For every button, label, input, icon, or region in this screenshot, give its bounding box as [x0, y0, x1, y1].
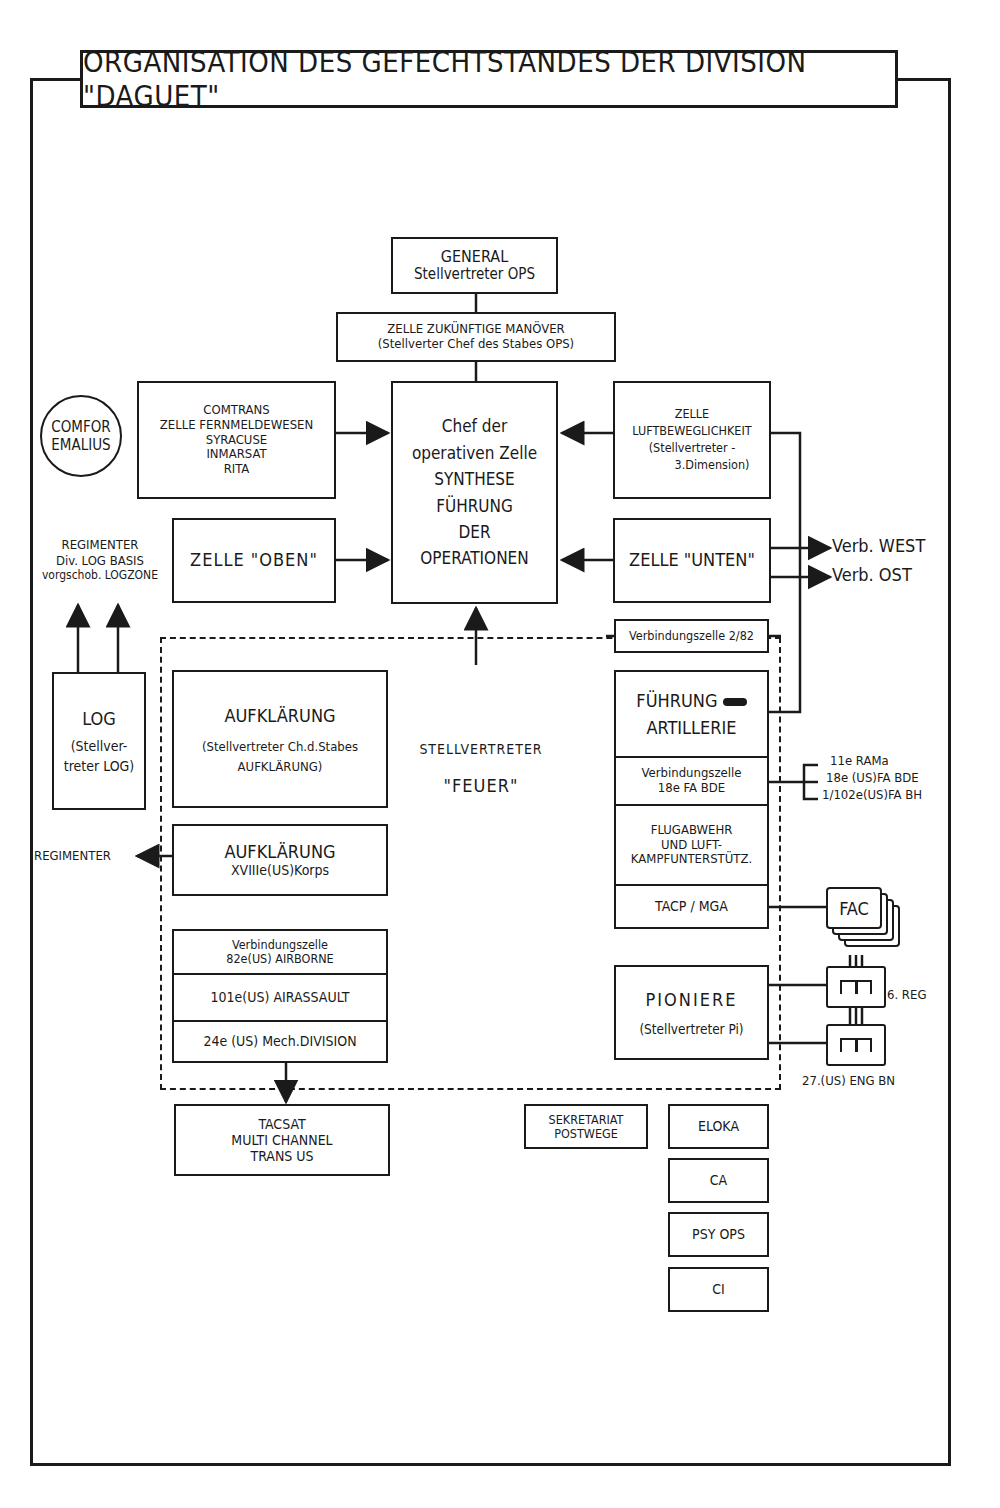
chef-operative-zelle-box: Chef der operativen Zelle SYNTHESE FÜHRU…: [391, 381, 558, 604]
pioniere-line2: (Stellvertreter Pi): [639, 1017, 743, 1041]
comfor-line2: EMALIUS: [51, 436, 110, 454]
manoever-line1: ZELLE ZUKÜNFTIGE MANÖVER: [387, 322, 564, 337]
luft-line4: 3.Dimension): [635, 457, 750, 474]
luft-line2: LUFTBEWEGLICHKEIT: [632, 423, 751, 440]
aufkl1-line1: AUFKLÄRUNG: [224, 702, 335, 729]
log-line2: (Stellver-: [71, 737, 128, 757]
zelle-unten-box: ZELLE "UNTEN": [613, 518, 771, 603]
vz82-line2: 82e(US) AIRBORNE: [226, 952, 333, 966]
aufkl2-line1: AUFKLÄRUNG: [224, 842, 335, 863]
vz18-line1: Verbindungszelle: [642, 766, 742, 781]
ca-label: CA: [710, 1172, 727, 1188]
tacsat-line2: MULTI CHANNEL: [231, 1132, 332, 1148]
general-line1: GENERAL: [441, 248, 508, 266]
chef-line5: DER: [458, 519, 490, 545]
sekr-line2: POSTWEGE: [554, 1127, 618, 1140]
mech-division-cell: 24e (US) Mech.DIVISION: [174, 1020, 386, 1061]
comfor-emalius-circle: COMFOR EMALIUS: [40, 395, 122, 477]
tacp-label: TACP / MGA: [655, 898, 728, 914]
airassault-cell: 101e(US) AIRASSAULT: [174, 973, 386, 1020]
us-units-stack: Verbindungszelle 82e(US) AIRBORNE 101e(U…: [172, 929, 388, 1063]
pioniere-box: PIONIERE (Stellvertreter Pi): [614, 965, 769, 1060]
reg-6-text: 6. REG: [887, 987, 926, 1002]
psy-ops-label: PSY OPS: [692, 1226, 745, 1242]
fuehrung-line1: FÜHRUNG: [636, 687, 746, 714]
aufkl1-line2: (Stellvertreter Ch.d.Stabes: [202, 737, 358, 757]
tacsat-line3: TRANS US: [250, 1148, 313, 1164]
pioniere-line1: PIONIERE: [646, 984, 738, 1016]
regimenter-left-text: REGIMENTER: [34, 848, 111, 863]
feuer-line1: STELLVERTRETER: [396, 733, 566, 765]
chef-line4: FÜHRUNG: [436, 493, 513, 519]
chef-line2: operativen Zelle: [412, 440, 537, 466]
airassault-label: 101e(US) AIRASSAULT: [211, 989, 350, 1005]
fa-units-list: 11e RAMa 18e (US)FA BDE 1/102e(US)FA BH: [822, 753, 922, 804]
fac-stack: FAC: [826, 887, 910, 951]
tacp-mga-cell: TACP / MGA: [616, 884, 767, 927]
comtrans-line5: RITA: [224, 462, 250, 477]
ca-box: CA: [668, 1158, 769, 1203]
comtrans-line2: ZELLE FERNMELDEWESEN: [160, 418, 313, 433]
reg-6-label: 6. REG: [887, 987, 926, 1003]
engineer-symbol-mid: [855, 980, 858, 994]
verb-west-label: Verb. WEST: [832, 535, 925, 557]
feuer-line2: "FEUER": [396, 765, 566, 806]
engineer-eng-bn-symbol: [826, 1024, 886, 1066]
manoever-line2: (Stellverter Chef des Stabes OPS): [378, 337, 574, 352]
eloka-box: ELOKA: [668, 1104, 769, 1149]
regimenter-left-label: REGIMENTER: [34, 848, 111, 864]
verbindungszelle-82-cell: Verbindungszelle 82e(US) AIRBORNE: [174, 931, 386, 973]
verb-ost-label: Verb. OST: [832, 564, 912, 586]
ci-label: CI: [712, 1281, 725, 1297]
fa-unit-1: 11e RAMa: [822, 753, 922, 770]
flug-line3: KAMPFUNTERSTÜTZ.: [631, 852, 752, 867]
chef-line6: OPERATIONEN: [420, 545, 528, 571]
tacsat-line1: TACSAT: [258, 1116, 305, 1132]
fac-label: FAC: [839, 898, 869, 919]
log-box: LOG (Stellver- treter LOG): [52, 672, 146, 810]
zelle-oben-box: ZELLE "OBEN": [172, 518, 336, 603]
fac-card: FAC: [826, 887, 882, 929]
fa-unit-3: 1/102e(US)FA BH: [822, 787, 922, 804]
aufkl2-line2: XVIIIe(US)Korps: [231, 862, 329, 878]
fa-unit-2: 18e (US)FA BDE: [822, 770, 922, 787]
luft-line3: (Stellvertreter -: [649, 440, 736, 457]
fuehrung-artillerie-cell: FÜHRUNG ARTILLERIE: [616, 672, 767, 756]
aufkl1-line3: AUFKLÄRUNG): [238, 757, 323, 777]
stellvertreter-feuer-label: STELLVERTRETER "FEUER": [396, 733, 566, 807]
aufklaerung-stellvertreter-box: AUFKLÄRUNG (Stellvertreter Ch.d.Stabes A…: [172, 670, 388, 808]
chef-line3: SYNTHESE: [434, 466, 514, 492]
general-line2: Stellvertreter OPS: [414, 266, 535, 283]
artillery-symbol-icon: [723, 698, 747, 706]
engineer-symbol-mid: [855, 1038, 858, 1052]
vz82-line1: Verbindungszelle: [232, 938, 328, 952]
zelle-unten-label: ZELLE "UNTEN": [629, 550, 755, 571]
regimenter-log-line1: REGIMENTER: [30, 537, 170, 553]
fuehrung-line2: ARTILLERIE: [646, 714, 736, 741]
luft-line1: ZELLE: [675, 406, 709, 423]
aufklaerung-xviii-korps-box: AUFKLÄRUNG XVIIIe(US)Korps: [172, 824, 388, 896]
ci-box: CI: [668, 1267, 769, 1312]
eng-bn-label: 27.(US) ENG BN: [802, 1073, 895, 1089]
verbindungszelle-2-82-label: Verbindungszelle 2/82: [629, 629, 754, 643]
artillerie-stack: FÜHRUNG ARTILLERIE Verbindungszelle 18e …: [614, 670, 769, 929]
log-line1: LOG: [82, 706, 116, 731]
zelle-oben-label: ZELLE "OBEN": [190, 550, 318, 571]
comfor-line1: COMFOR: [51, 418, 110, 436]
tacsat-box: TACSAT MULTI CHANNEL TRANS US: [174, 1104, 390, 1176]
mech-label: 24e (US) Mech.DIVISION: [203, 1033, 356, 1049]
regimenter-log-line2: Div. LOG BASIS: [30, 553, 170, 569]
verbindungszelle-2-82-box: Verbindungszelle 2/82: [614, 619, 769, 653]
chef-line1: Chef der: [442, 413, 507, 439]
comtrans-box: COMTRANS ZELLE FERNMELDEWESEN SYRACUSE I…: [137, 381, 336, 499]
regimenter-log-line3: vorgschob. LOGZONE: [30, 568, 170, 582]
vz18-line2: 18e FA BDE: [658, 781, 725, 796]
zelle-zukuenftige-manoever-box: ZELLE ZUKÜNFTIGE MANÖVER (Stellverter Ch…: [336, 312, 616, 362]
regimenter-log-label: REGIMENTER Div. LOG BASIS vorgschob. LOG…: [30, 537, 170, 583]
comtrans-line3: SYRACUSE: [206, 433, 267, 448]
comtrans-line1: COMTRANS: [203, 403, 269, 418]
general-box: GENERAL Stellvertreter OPS: [391, 237, 558, 294]
eloka-label: ELOKA: [698, 1118, 739, 1134]
engineer-reg-6-symbol: [826, 966, 886, 1008]
sekr-line1: SEKRETARIAT: [549, 1113, 624, 1126]
